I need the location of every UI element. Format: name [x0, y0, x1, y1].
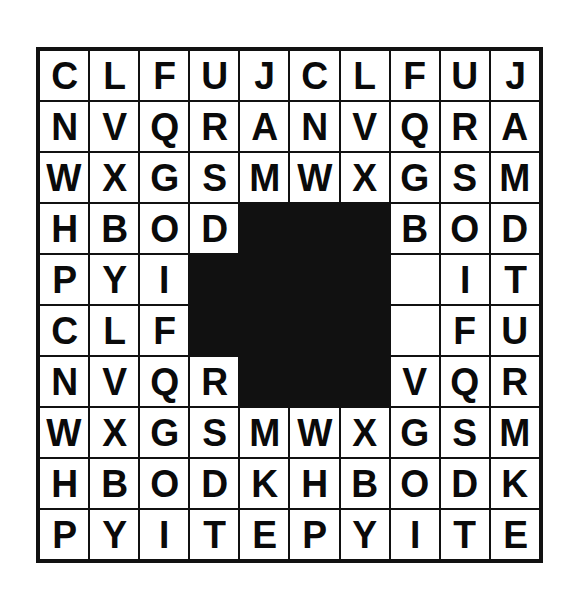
grid-cell[interactable]: O [139, 458, 189, 509]
grid-cell[interactable]: K [490, 458, 540, 509]
grid-cell[interactable]: J [239, 50, 289, 101]
grid-cell[interactable]: S [440, 407, 490, 458]
grid-cell[interactable]: Q [440, 356, 490, 407]
grid-cell[interactable]: V [390, 356, 440, 407]
grid-cell[interactable]: A [490, 101, 540, 152]
grid-cell[interactable]: V [340, 101, 390, 152]
grid-cell[interactable]: P [39, 509, 89, 560]
cell-letter: J [505, 57, 525, 95]
grid-cell[interactable]: P [39, 254, 89, 305]
grid-cell[interactable]: X [89, 152, 139, 203]
grid-cell[interactable]: F [390, 50, 440, 101]
grid-cell[interactable]: J [490, 50, 540, 101]
grid-cell[interactable]: F [139, 50, 189, 101]
grid-cell[interactable]: R [490, 356, 540, 407]
grid-cell[interactable]: S [189, 152, 239, 203]
cell-letter: V [102, 363, 126, 401]
grid-cell[interactable]: G [139, 152, 189, 203]
grid-cell[interactable]: F [440, 305, 490, 356]
grid-cell[interactable]: T [189, 509, 239, 560]
grid-cell[interactable]: I [440, 254, 490, 305]
cell-letter: C [51, 57, 77, 95]
grid-cell[interactable]: G [139, 407, 189, 458]
grid-cell[interactable]: E [239, 509, 289, 560]
grid-cell[interactable]: A [239, 101, 289, 152]
grid-cell[interactable]: B [89, 458, 139, 509]
grid-cell[interactable]: Q [139, 356, 189, 407]
grid-cell[interactable]: G [390, 152, 440, 203]
grid-cell[interactable]: R [440, 101, 490, 152]
grid-cell[interactable]: M [490, 152, 540, 203]
cell-letter: P [52, 261, 76, 299]
grid-cell[interactable]: T [490, 254, 540, 305]
grid-cell[interactable]: I [139, 254, 189, 305]
grid-cell[interactable]: W [289, 407, 339, 458]
grid-cell[interactable]: L [89, 305, 139, 356]
grid-cell[interactable]: B [390, 203, 440, 254]
grid-cell[interactable]: W [289, 152, 339, 203]
grid-cell-blocked [189, 305, 239, 356]
grid-cell[interactable]: Q [390, 101, 440, 152]
grid-cell[interactable]: H [39, 458, 89, 509]
grid-cell[interactable]: L [89, 50, 139, 101]
grid-cell[interactable]: H [289, 458, 339, 509]
grid-cell[interactable]: B [340, 458, 390, 509]
grid-cell[interactable]: B [89, 203, 139, 254]
cell-letter: P [302, 516, 326, 554]
grid-cell[interactable]: X [89, 407, 139, 458]
grid-cell[interactable]: D [189, 458, 239, 509]
grid-cell[interactable]: C [39, 305, 89, 356]
grid-cell[interactable]: S [440, 152, 490, 203]
grid-cell[interactable]: W [39, 152, 89, 203]
grid-cell[interactable]: Y [89, 254, 139, 305]
grid-cell-blocked [239, 356, 289, 407]
grid-cell[interactable]: V [89, 101, 139, 152]
grid-cell[interactable]: V [89, 356, 139, 407]
grid-cell[interactable]: R [189, 356, 239, 407]
grid-cell[interactable]: P [289, 509, 339, 560]
grid-cell[interactable]: U [490, 305, 540, 356]
cell-letter: T [504, 261, 526, 299]
grid-cell[interactable]: E [490, 509, 540, 560]
grid-cell[interactable]: K [239, 458, 289, 509]
grid-cell[interactable] [390, 305, 440, 356]
cell-letter: O [150, 210, 178, 248]
grid-cell[interactable]: U [440, 50, 490, 101]
grid-cell[interactable]: M [239, 407, 289, 458]
grid-cell[interactable]: N [289, 101, 339, 152]
cell-letter: A [502, 108, 528, 146]
grid-cell[interactable]: C [39, 50, 89, 101]
grid-cell[interactable]: W [39, 407, 89, 458]
grid-cell[interactable]: F [139, 305, 189, 356]
grid-cell-blocked [239, 305, 289, 356]
grid-cell[interactable]: O [390, 458, 440, 509]
grid-cell[interactable]: G [390, 407, 440, 458]
grid-cell[interactable]: Y [89, 509, 139, 560]
grid-cell[interactable]: M [239, 152, 289, 203]
cell-letter: Y [352, 516, 376, 554]
grid-cell[interactable]: X [340, 407, 390, 458]
grid-cell[interactable]: N [39, 101, 89, 152]
grid-cell[interactable]: L [340, 50, 390, 101]
grid-cell[interactable]: I [139, 509, 189, 560]
grid-cell[interactable]: X [340, 152, 390, 203]
grid-cell[interactable]: N [39, 356, 89, 407]
grid-cell[interactable]: D [189, 203, 239, 254]
grid-cell[interactable]: M [490, 407, 540, 458]
grid-cell[interactable]: T [440, 509, 490, 560]
grid-cell[interactable]: D [490, 203, 540, 254]
cell-letter: N [301, 108, 327, 146]
cell-letter: F [404, 57, 426, 95]
grid-cell[interactable]: O [440, 203, 490, 254]
grid-cell[interactable]: Y [340, 509, 390, 560]
grid-cell[interactable]: U [189, 50, 239, 101]
grid-cell[interactable]: C [289, 50, 339, 101]
grid-cell[interactable]: S [189, 407, 239, 458]
grid-cell[interactable]: R [189, 101, 239, 152]
grid-cell[interactable]: H [39, 203, 89, 254]
grid-cell[interactable]: O [139, 203, 189, 254]
grid-cell[interactable]: Q [139, 101, 189, 152]
grid-cell[interactable] [390, 254, 440, 305]
grid-cell[interactable]: I [390, 509, 440, 560]
grid-cell[interactable]: D [440, 458, 490, 509]
